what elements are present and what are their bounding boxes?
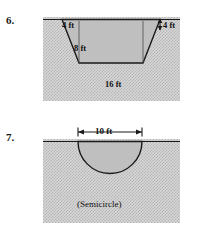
problem-7: 7. 10 ft (Semicircle) bbox=[0, 117, 198, 234]
right-offset-arrow-down-icon bbox=[158, 26, 163, 31]
semicircle-channel-shape bbox=[78, 142, 142, 174]
width-arrow-left-icon bbox=[78, 129, 84, 134]
label-depth-8ft: 8 ft bbox=[74, 43, 86, 53]
width-arrow-right-icon bbox=[136, 129, 142, 134]
label-bottom-16ft: 16 ft bbox=[105, 79, 121, 89]
trapezoid-channel-shape bbox=[62, 20, 160, 64]
label-semicircle-caption: (Semicircle) bbox=[77, 199, 121, 209]
problem-6: 6. 4 ft 4 ft 8 ft 16 ft bbox=[0, 0, 198, 117]
figure-6-trapezoid: 4 ft 4 ft 8 ft 16 ft bbox=[43, 17, 180, 101]
label-width-10ft: 10 ft bbox=[95, 126, 112, 136]
label-top-right-4ft: 4 ft bbox=[163, 20, 175, 30]
problem-number-7: 7. bbox=[6, 131, 14, 143]
figure-7-semicircle: 10 ft (Semicircle) bbox=[43, 139, 180, 223]
semicircle-diagram-svg bbox=[43, 139, 180, 223]
label-top-left-4ft: 4 ft bbox=[62, 20, 74, 30]
problem-number-6: 6. bbox=[6, 14, 14, 26]
